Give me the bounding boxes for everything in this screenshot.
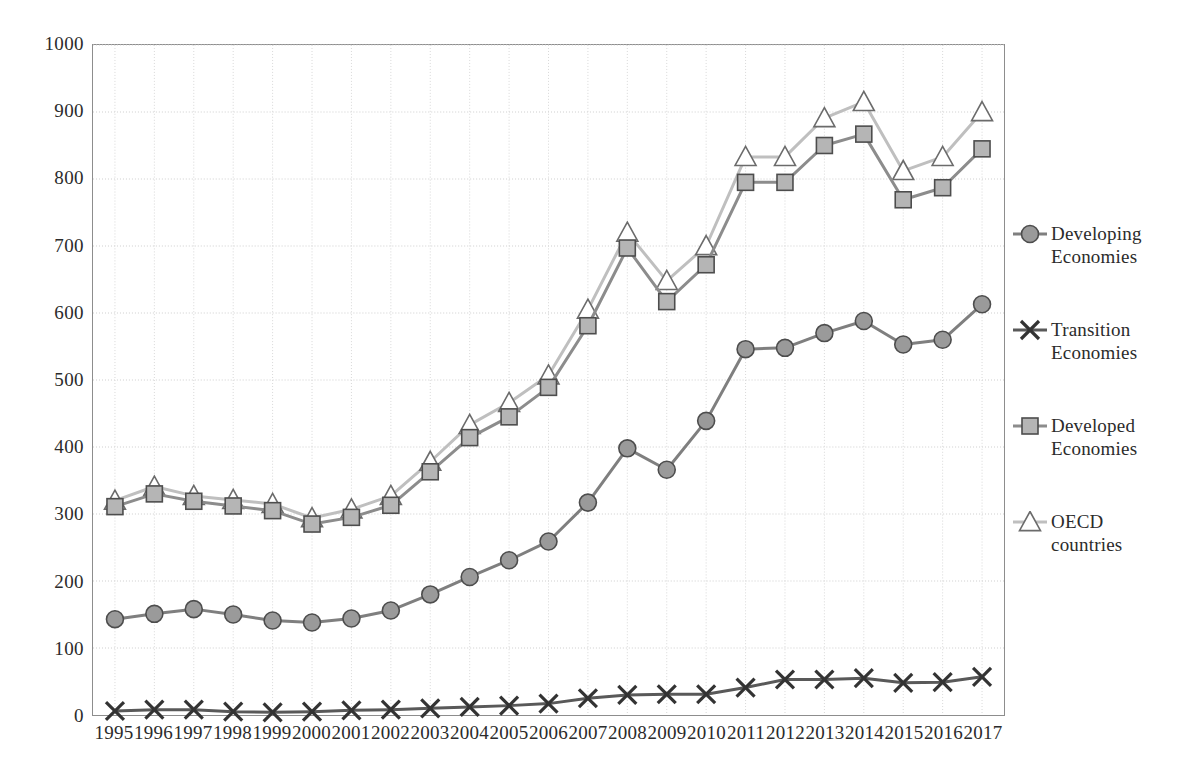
y-axis: 01002003004005006007008009001000 <box>0 44 84 716</box>
triangle-marker-icon <box>1012 511 1048 533</box>
y-tick-label: 100 <box>10 639 84 658</box>
legend-label: OECD countries <box>1051 510 1122 556</box>
series-oecd-countries <box>104 91 992 526</box>
circle-marker-icon <box>1012 223 1048 245</box>
series-transition-economies <box>106 668 991 721</box>
y-tick-label: 200 <box>10 572 84 591</box>
x-tick-label: 2017 <box>956 722 1010 744</box>
legend-label: Developing Economies <box>1051 222 1142 268</box>
legend-label: Transition Economies <box>1051 318 1137 364</box>
y-tick-label: 500 <box>10 370 84 389</box>
series-developing-economies <box>106 296 990 631</box>
y-tick-label: 0 <box>10 706 84 725</box>
series-layer <box>93 45 1004 715</box>
y-tick-label: 900 <box>10 101 84 120</box>
x-axis: 1995199619971998199920002001200220032004… <box>92 722 1005 752</box>
y-tick-label: 700 <box>10 236 84 255</box>
legend-label: Developed Economies <box>1051 414 1137 460</box>
legend-item-transition-economies[interactable]: Transition Economies <box>1012 318 1137 364</box>
square-marker-icon <box>1012 415 1048 437</box>
y-tick-label: 800 <box>10 168 84 187</box>
legend-item-developing-economies[interactable]: Developing Economies <box>1012 222 1142 268</box>
legend-item-developed-economies[interactable]: Developed Economies <box>1012 414 1137 460</box>
x-marker-icon <box>1012 319 1048 341</box>
plot-area <box>92 44 1005 716</box>
y-tick-label: 600 <box>10 303 84 322</box>
y-tick-label: 400 <box>10 437 84 456</box>
line-chart: 01002003004005006007008009001000 1995199… <box>0 0 1183 784</box>
y-tick-label: 1000 <box>10 34 84 53</box>
series-developed-economies <box>107 126 990 532</box>
legend-item-oecd-countries[interactable]: OECD countries <box>1012 510 1122 556</box>
y-tick-label: 300 <box>10 504 84 523</box>
